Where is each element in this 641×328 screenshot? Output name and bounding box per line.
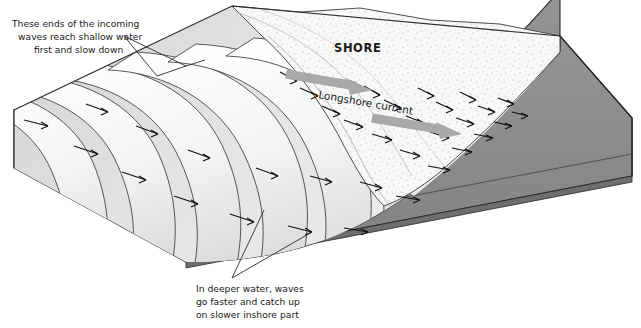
annotation-bottom-line1: In deeper water, waves [196,283,304,294]
annotation-top-left-line1: These ends of the incoming [11,18,139,29]
annotation-top-left-line3: first and slow down [34,44,123,55]
shore-label: SHORE [334,41,381,55]
annotation-top-left-line2: waves reach shallow water [18,31,142,42]
annotation-bottom-line3: on slower inshore part [196,309,299,320]
longshore-current-diagram: SHORE Longshore current These ends of th… [0,0,641,328]
annotation-bottom-line2: go faster and catch up [196,296,300,307]
